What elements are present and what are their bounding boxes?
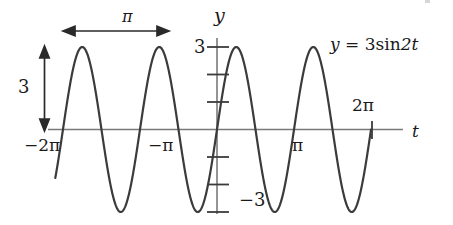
arrowhead-left: [63, 26, 75, 36]
equation-lhs: y: [330, 34, 340, 54]
arrowhead-down: [40, 119, 49, 131]
period-annotation-label: π: [122, 9, 133, 25]
equation-argument: 2t: [401, 34, 419, 54]
sine-graph-figure: y t y = 3sin2t π 3 3 −3 −2π −π π 2π: [0, 0, 453, 225]
y-tick-label-3: 3: [194, 38, 205, 56]
x-tick-label-minus-2pi: −2π: [24, 137, 60, 154]
x-tick-label-pi: π: [292, 137, 303, 154]
t-axis-label: t: [412, 123, 419, 140]
equation-coefficient: 3: [365, 34, 376, 54]
amplitude-annotation-label: 3: [18, 78, 29, 96]
equation-equals-glyph: =: [345, 34, 359, 54]
scan-artifact: [425, 0, 430, 3]
y-axis-label: y: [214, 6, 225, 25]
equation-function: sin: [376, 34, 401, 54]
equation-label: y = 3sin2t: [330, 36, 418, 53]
arrowhead-right: [157, 26, 169, 36]
y-tick-label-neg3: −3: [239, 191, 266, 209]
x-tick-label-minus-pi: −π: [148, 137, 173, 154]
period-double-arrow: [63, 26, 169, 36]
arrowhead-up: [40, 46, 49, 58]
x-tick-label-2pi: 2π: [352, 97, 374, 114]
amplitude-double-arrow: [40, 46, 49, 131]
